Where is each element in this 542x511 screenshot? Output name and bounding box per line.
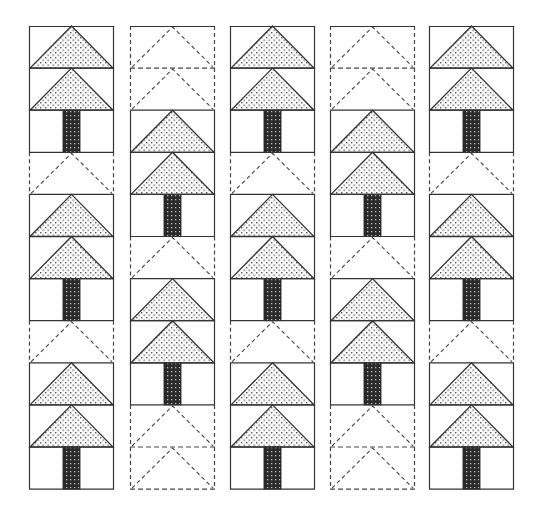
dashed-triangle-icon xyxy=(132,69,213,109)
column-3-drawing xyxy=(230,26,316,490)
block-dash xyxy=(29,152,114,194)
dashed-triangle-icon xyxy=(132,406,213,446)
column-2 xyxy=(130,26,215,489)
tree-trunk-icon xyxy=(364,194,381,236)
block-trunk xyxy=(429,279,514,321)
block-tri xyxy=(429,405,514,447)
dashed-triangle-icon xyxy=(431,153,512,193)
block-tri xyxy=(429,68,514,110)
block-trunk xyxy=(130,363,215,405)
tree-trunk-icon xyxy=(164,194,181,236)
block-dash xyxy=(330,68,415,110)
block-tri xyxy=(29,26,114,68)
dashed-triangle-icon xyxy=(332,27,413,67)
block-tri xyxy=(130,152,215,194)
block-tri xyxy=(29,68,114,110)
dashed-triangle-icon xyxy=(31,153,112,193)
block-dash xyxy=(429,152,514,194)
block-tri xyxy=(330,279,415,321)
block-tri xyxy=(230,405,315,447)
block-dash xyxy=(130,405,215,447)
block-tri xyxy=(230,363,315,405)
column-1-drawing xyxy=(29,26,115,490)
dashed-triangle-icon xyxy=(332,406,413,446)
block-trunk xyxy=(230,447,315,489)
block-tri xyxy=(130,321,215,363)
tree-trunk-icon xyxy=(63,110,80,152)
block-dash xyxy=(429,321,514,363)
block-dash xyxy=(330,26,415,68)
block-trunk xyxy=(429,110,514,152)
block-tri xyxy=(29,363,114,405)
block-tri xyxy=(429,237,514,279)
dashed-triangle-icon xyxy=(132,238,213,278)
dashed-triangle-icon xyxy=(332,69,413,109)
block-tri xyxy=(429,26,514,68)
block-dash xyxy=(130,68,215,110)
dashed-triangle-icon xyxy=(31,322,112,362)
block-tri xyxy=(330,321,415,363)
tree-trunk-icon xyxy=(463,447,480,489)
block-trunk xyxy=(230,110,315,152)
tree-trunk-icon xyxy=(264,447,281,489)
block-trunk xyxy=(29,110,114,152)
block-tri xyxy=(29,194,114,236)
dashed-triangle-icon xyxy=(232,322,313,362)
block-tri xyxy=(230,194,315,236)
tree-trunk-icon xyxy=(463,110,480,152)
block-tri xyxy=(429,194,514,236)
tree-trunk-icon xyxy=(264,110,281,152)
tree-trunk-icon xyxy=(164,363,181,405)
dashed-triangle-icon xyxy=(431,322,512,362)
dashed-triangle-icon xyxy=(232,153,313,193)
dashed-triangle-icon xyxy=(132,27,213,67)
block-tri xyxy=(330,110,415,152)
block-dash xyxy=(230,321,315,363)
block-trunk xyxy=(230,279,315,321)
block-tri xyxy=(429,363,514,405)
block-trunk xyxy=(330,194,415,236)
block-tri xyxy=(330,152,415,194)
block-dash xyxy=(130,237,215,279)
block-tri xyxy=(230,68,315,110)
block-trunk xyxy=(130,194,215,236)
block-dash xyxy=(230,152,315,194)
quilt-layout xyxy=(0,0,542,511)
dashed-triangle-icon xyxy=(332,448,413,488)
block-tri xyxy=(230,26,315,68)
column-5 xyxy=(429,26,514,489)
tree-trunk-icon xyxy=(63,447,80,489)
block-dash xyxy=(330,447,415,489)
column-1 xyxy=(29,26,114,489)
block-tri xyxy=(230,237,315,279)
block-trunk xyxy=(29,447,114,489)
block-tri xyxy=(130,110,215,152)
block-dash xyxy=(130,26,215,68)
tree-trunk-icon xyxy=(264,279,281,321)
block-tri xyxy=(130,279,215,321)
dashed-triangle-icon xyxy=(132,448,213,488)
tree-trunk-icon xyxy=(364,363,381,405)
tree-trunk-icon xyxy=(463,279,480,321)
block-dash xyxy=(330,237,415,279)
column-2-drawing xyxy=(130,26,216,490)
column-5-drawing xyxy=(429,26,515,490)
block-dash xyxy=(130,447,215,489)
dashed-triangle-icon xyxy=(332,238,413,278)
block-tri xyxy=(29,237,114,279)
block-dash xyxy=(29,321,114,363)
block-trunk xyxy=(429,447,514,489)
column-4 xyxy=(330,26,415,489)
block-dash xyxy=(330,405,415,447)
column-4-drawing xyxy=(330,26,416,490)
column-3 xyxy=(230,26,315,489)
block-trunk xyxy=(330,363,415,405)
tree-trunk-icon xyxy=(63,279,80,321)
block-trunk xyxy=(29,279,114,321)
block-tri xyxy=(29,405,114,447)
